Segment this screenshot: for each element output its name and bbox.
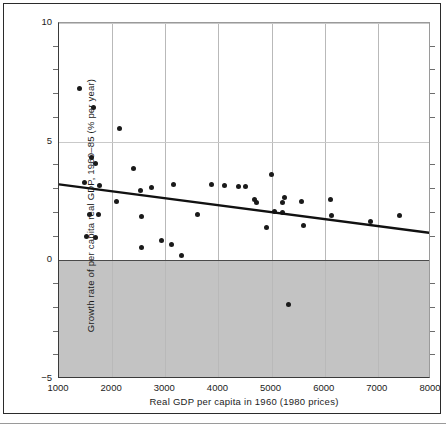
x-axis-tick-label: 6000 bbox=[296, 382, 352, 393]
y-axis-tick-label: 5 bbox=[6, 136, 52, 146]
y-axis-minor-tick-right bbox=[430, 46, 435, 47]
footer-divider bbox=[0, 423, 446, 424]
y-axis-minor-tick bbox=[53, 283, 58, 284]
x-axis-tick-label: 5000 bbox=[243, 382, 299, 393]
trend-line bbox=[59, 23, 430, 378]
y-axis-minor-tick-right bbox=[430, 93, 435, 94]
y-axis-minor-tick bbox=[53, 307, 58, 308]
y-axis-minor-tick-right bbox=[430, 212, 435, 213]
y-axis-minor-tick bbox=[53, 236, 58, 237]
y-axis-minor-tick-right bbox=[430, 188, 435, 189]
figure-container: −50510 10002000300040005000600070008000 … bbox=[0, 0, 446, 435]
y-axis-minor-tick-right bbox=[430, 354, 435, 355]
y-axis-minor-tick bbox=[53, 164, 58, 165]
y-axis-minor-tick bbox=[53, 212, 58, 213]
x-axis-tick-label: 1000 bbox=[30, 382, 86, 393]
y-axis-minor-tick-right bbox=[430, 307, 435, 308]
y-axis-minor-tick bbox=[53, 69, 58, 70]
x-axis-tick-label: 7000 bbox=[349, 382, 405, 393]
x-axis-tick-label: 2000 bbox=[83, 382, 139, 393]
x-axis-tick-label: 8000 bbox=[402, 382, 446, 393]
y-axis-minor-tick bbox=[53, 46, 58, 47]
y-axis-minor-tick bbox=[53, 93, 58, 94]
x-axis-tick-label: 4000 bbox=[189, 382, 245, 393]
y-axis-minor-tick-right bbox=[430, 236, 435, 237]
y-axis-minor-tick-right bbox=[430, 283, 435, 284]
y-axis-minor-tick-right bbox=[430, 69, 435, 70]
y-axis-minor-tick bbox=[53, 331, 58, 332]
x-axis-title: Real GDP per capita in 1960 (1980 prices… bbox=[58, 396, 430, 407]
y-axis-tick-label: 10 bbox=[6, 17, 52, 27]
y-axis-minor-tick bbox=[53, 354, 58, 355]
plot-area bbox=[58, 22, 430, 378]
y-axis-minor-tick-right bbox=[430, 164, 435, 165]
y-axis-minor-tick-right bbox=[430, 331, 435, 332]
y-axis-title: Growth rate of per capita real GDP, 1960… bbox=[85, 28, 96, 384]
y-axis-tick-label: 0 bbox=[6, 254, 52, 264]
plot-wrapper: −50510 10002000300040005000600070008000 … bbox=[58, 22, 430, 378]
x-axis-tick-label: 3000 bbox=[136, 382, 192, 393]
y-axis-minor-tick bbox=[53, 188, 58, 189]
y-axis-minor-tick-right bbox=[430, 117, 435, 118]
y-axis-minor-tick bbox=[53, 117, 58, 118]
